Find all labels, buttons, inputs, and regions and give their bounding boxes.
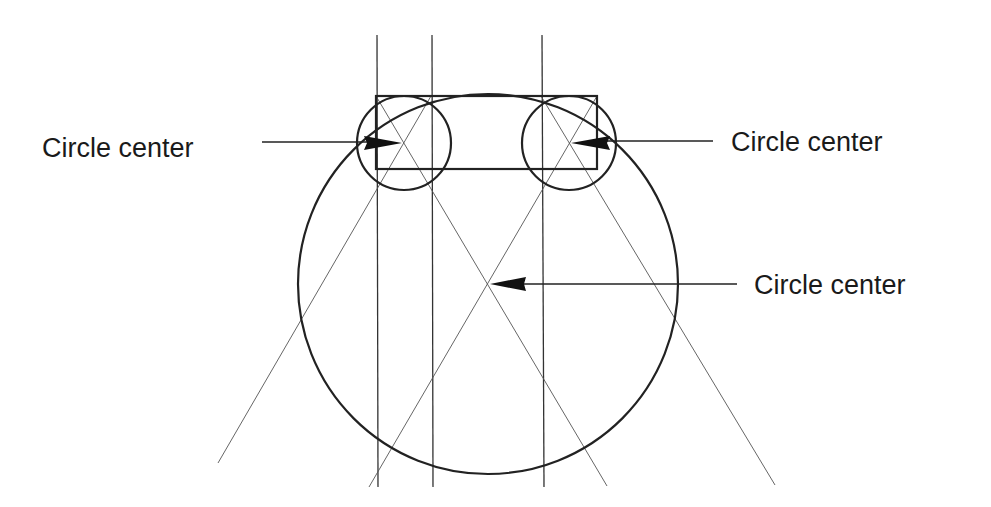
- label-left-circle-center: Circle center: [42, 133, 194, 163]
- bounding-rectangle: [376, 96, 597, 169]
- label-large-circle-center: Circle center: [754, 270, 906, 300]
- diagonal-construction-line: [218, 96, 431, 463]
- arrowhead-left-icon: [364, 136, 402, 150]
- arrowhead-center-icon: [490, 277, 526, 291]
- arrowhead-right-icon: [571, 136, 610, 150]
- diagonal-construction-line: [376, 96, 607, 486]
- label-right-circle-center: Circle center: [731, 127, 883, 157]
- diagonal-construction-line: [369, 96, 597, 487]
- circle-construction-diagram: Circle center Circle center Circle cente…: [0, 0, 991, 507]
